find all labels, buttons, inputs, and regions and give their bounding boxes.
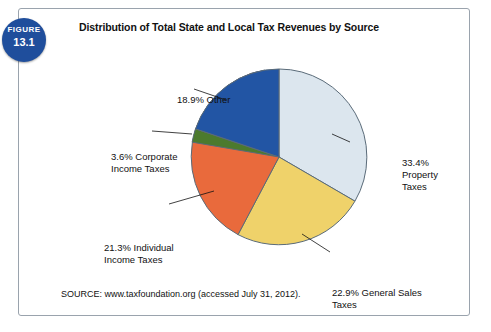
pie-label-corporate-income-taxes: 3.6% Corporate Income Taxes — [111, 151, 178, 175]
pie-label-other: 18.9% Other — [177, 94, 230, 106]
chart-title: Distribution of Total State and Local Ta… — [79, 21, 379, 33]
figure-badge-word: FIGURE — [2, 25, 46, 35]
source-note: SOURCE: www.taxfoundation.org (accessed … — [61, 289, 301, 299]
pie-chart-area: 18.9% Other 3.6% Corporate Income Taxes … — [74, 39, 464, 279]
figure-panel: Distribution of Total State and Local Ta… — [18, 8, 470, 316]
pie-label-property-taxes: 33.4% Property Taxes — [402, 157, 464, 193]
figure-number-badge: FIGURE 13.1 — [2, 18, 46, 62]
figure-badge-number: 13.1 — [2, 36, 46, 48]
pie-label-individual-income-taxes: 21.3% Individual Income Taxes — [104, 242, 174, 266]
pie-label-general-sales-taxes: 22.9% General Sales Taxes — [332, 287, 422, 311]
leader-line-corporate — [152, 131, 192, 134]
